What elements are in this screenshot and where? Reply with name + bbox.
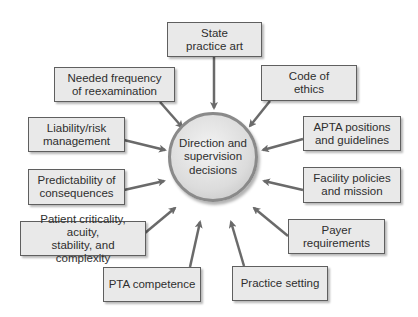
factor-label: APTA positions and guidelines bbox=[313, 121, 390, 147]
arrow-practice-setting bbox=[231, 222, 244, 266]
factor-patient-criticality: Patient criticality, acuity, stability, … bbox=[20, 221, 146, 256]
factor-label: Practice setting bbox=[241, 277, 320, 290]
factor-label: PTA competence bbox=[109, 278, 196, 291]
center-label: Direction and supervision decisions bbox=[179, 137, 247, 178]
factor-label: Facility policies and mission bbox=[313, 172, 390, 198]
factor-label: State practice art bbox=[186, 27, 243, 53]
factor-facility-policies: Facility policies and mission bbox=[303, 167, 401, 203]
arrow-pta-competence bbox=[190, 222, 200, 267]
factor-pta-competence: PTA competence bbox=[103, 267, 201, 302]
factor-label: Needed frequency of reexamination bbox=[68, 72, 162, 98]
factor-label: Patient criticality, acuity, stability, … bbox=[24, 213, 142, 265]
arrow-apta-positions bbox=[263, 139, 303, 150]
factor-liability-risk: Liability/risk management bbox=[28, 117, 125, 152]
factor-practice-setting: Practice setting bbox=[232, 266, 328, 301]
arrow-payer-requirements bbox=[254, 208, 288, 236]
factor-label: Code of ethics bbox=[289, 70, 329, 96]
arrow-needed-frequency bbox=[160, 102, 182, 127]
factor-apta-positions: APTA positions and guidelines bbox=[303, 116, 401, 151]
arrow-code-of-ethics bbox=[250, 101, 270, 126]
arrow-predictability bbox=[124, 181, 164, 190]
factor-label: Payer requirements bbox=[303, 224, 370, 250]
factor-needed-frequency: Needed frequency of reexamination bbox=[54, 67, 175, 102]
factor-predictability: Predictability of consequences bbox=[28, 169, 125, 205]
arrow-facility-policies bbox=[264, 181, 303, 190]
factor-state-practice-act: State practice art bbox=[167, 22, 262, 57]
factor-code-of-ethics: Code of ethics bbox=[261, 65, 357, 101]
factor-label: Predictability of consequences bbox=[38, 174, 116, 200]
arrow-patient-criticality bbox=[145, 208, 175, 233]
factor-payer-requirements: Payer requirements bbox=[288, 219, 385, 254]
factor-label: Liability/risk management bbox=[43, 122, 110, 148]
center-node-direction-supervision: Direction and supervision decisions bbox=[168, 112, 258, 202]
arrow-liability-risk bbox=[124, 140, 165, 150]
diagram: Direction and supervision decisions Stat… bbox=[0, 0, 418, 317]
